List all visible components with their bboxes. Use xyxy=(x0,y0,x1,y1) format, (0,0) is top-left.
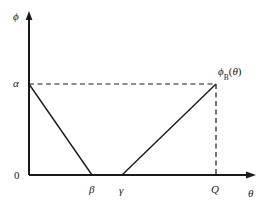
x-axis-arrowhead xyxy=(246,171,256,178)
plot-canvas xyxy=(0,0,266,212)
origin-label: 0 xyxy=(14,170,20,181)
y-axis-arrowhead xyxy=(26,11,33,20)
curve-annotation-phi-b: ϕB(θ) xyxy=(218,66,241,80)
phi-b-curve xyxy=(29,84,216,175)
curve-annotation-paren-close: ) xyxy=(238,65,242,77)
x-axis xyxy=(29,171,256,178)
x-tick-label-gamma: γ xyxy=(119,185,123,196)
x-axis-label: θ xyxy=(248,188,253,199)
y-axis xyxy=(26,11,33,175)
y-axis-label: ϕ xyxy=(13,11,19,22)
y-tick-label-alpha: α xyxy=(13,78,19,89)
figure-container: ϕ θ α 0 β γ Q ϕB(θ) xyxy=(0,0,266,212)
x-tick-label-q: Q xyxy=(211,184,219,195)
curve-ascending-segment xyxy=(122,84,216,175)
x-tick-label-beta: β xyxy=(89,184,94,195)
curve-annotation-subscript: B xyxy=(224,73,229,82)
curve-annotation-base: ϕ xyxy=(218,65,224,77)
curve-descending-segment xyxy=(29,84,92,175)
